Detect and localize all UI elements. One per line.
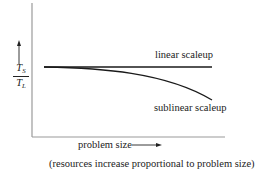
x-right-arrow-icon — [132, 143, 162, 147]
linear-scaleup-label: linear scaleup — [155, 50, 213, 61]
ylabel-numerator-sub: S — [22, 67, 26, 75]
figure-caption: (resources increase proportional to prob… — [49, 159, 255, 170]
y-up-arrow-icon — [17, 40, 21, 64]
y-axis-label: TS TL — [13, 63, 29, 90]
sublinear-scaleup-label: sublinear scaleup — [154, 103, 227, 114]
sublinear-scaleup-curve — [44, 67, 212, 100]
x-axis-label: problem size — [78, 140, 132, 151]
ylabel-denominator-sub: L — [22, 82, 26, 90]
